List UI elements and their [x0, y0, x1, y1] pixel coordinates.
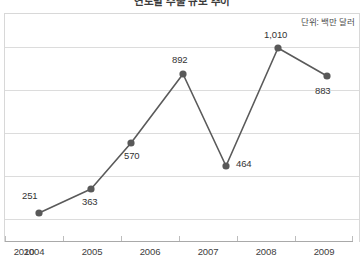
data-point-label: 363 [82, 196, 98, 207]
x-axis-label-2010: 2010 [0, 246, 48, 257]
data-point-marker[interactable] [323, 72, 330, 79]
axis-tick [295, 236, 296, 241]
data-point-marker[interactable] [222, 162, 229, 169]
data-point-marker[interactable] [274, 44, 281, 51]
data-point-label: 570 [124, 150, 140, 161]
axis-tick [5, 236, 6, 241]
data-point-label: 883 [315, 85, 331, 96]
x-axis-label-2007: 2007 [184, 246, 232, 257]
x-axis-label-2009: 2009 [300, 246, 348, 257]
axis-tick [179, 236, 180, 241]
x-axis-line [5, 241, 353, 242]
data-point-marker[interactable] [179, 70, 186, 77]
line-series [0, 0, 364, 271]
data-point-label: 1,010 [264, 29, 287, 40]
axis-tick [237, 236, 238, 241]
x-axis-label-2005: 2005 [68, 246, 116, 257]
axis-tick [352, 236, 353, 241]
series-markers [35, 44, 330, 216]
axis-tick [121, 236, 122, 241]
x-axis-label-2008: 2008 [242, 246, 290, 257]
data-point-label: 464 [236, 158, 252, 169]
data-point-label: 892 [172, 54, 188, 65]
data-point-marker[interactable] [127, 139, 134, 146]
x-axis-label-2006: 2006 [126, 246, 174, 257]
chart-screenshot: 연도별 수출 규모 추이 단위: 백만 달러 2513635708924641,… [0, 0, 364, 271]
data-point-marker[interactable] [87, 185, 94, 192]
axis-tick [63, 236, 64, 241]
data-point-label: 251 [22, 190, 38, 201]
data-point-marker[interactable] [35, 209, 42, 216]
